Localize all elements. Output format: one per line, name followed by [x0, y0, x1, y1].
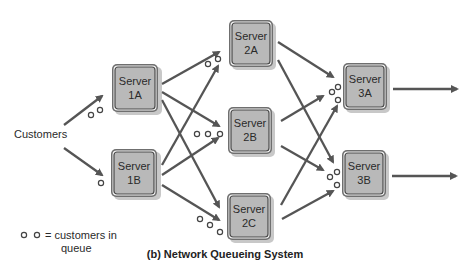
- arrows-output: [392, 89, 457, 176]
- server-3a: Server 3A: [343, 63, 390, 113]
- arrows-stage2-stage3: [278, 42, 337, 219]
- legend-label-line2: queue: [61, 242, 92, 254]
- server-2b: Server 2B: [228, 107, 275, 157]
- server-1a-label-line2: 1A: [128, 89, 142, 101]
- customers-label: Customers: [14, 128, 68, 140]
- server-1a-label-line1: Server: [119, 75, 152, 87]
- queue-1a: [88, 107, 102, 117]
- server-1b-label-line2: 1B: [127, 174, 140, 186]
- server-1b: Server 1B: [111, 149, 161, 200]
- server-2a: Server 2A: [229, 20, 276, 70]
- arrow-2a-to-3a: [278, 42, 333, 77]
- queue-2b: [194, 131, 222, 136]
- server-2b-label-line2: 2B: [243, 131, 256, 143]
- arrow-2a-to-3b: [278, 60, 333, 162]
- server-2c-label-line1: Server: [233, 203, 266, 215]
- server-1b-label-line1: Server: [118, 160, 151, 172]
- server-2a-label-line2: 2A: [244, 44, 258, 56]
- server-3b-label-line1: Server: [348, 160, 381, 172]
- server-1a: Server 1A: [112, 64, 162, 115]
- server-2b-label-line1: Server: [234, 117, 267, 129]
- arrows-source: [64, 96, 102, 175]
- server-2c: Server 2C: [227, 193, 274, 243]
- server-2c-label-line2: 2C: [242, 217, 256, 229]
- legend-queue-icon: [21, 232, 26, 237]
- queue-3a: [329, 84, 340, 102]
- server-2a-label-line1: Server: [235, 30, 268, 42]
- arrow-1a-to-2b: [162, 92, 219, 126]
- network-queueing-diagram: Server 1A Server 1B Server 2A Server 2B …: [0, 0, 470, 273]
- server-3a-label-line1: Server: [349, 73, 382, 85]
- arrow-1b-to-2b: [162, 138, 218, 175]
- server-3b: Server 3B: [342, 150, 389, 200]
- arrow-customers-to-1a: [64, 96, 102, 125]
- legend: = customers in queue: [21, 229, 116, 254]
- legend-label-line1: = customers in: [45, 229, 117, 241]
- server-3b-label-line2: 3B: [357, 174, 370, 186]
- server-3a-label-line2: 3A: [358, 87, 372, 99]
- figure-caption: (b) Network Queueing System: [147, 248, 304, 260]
- legend-queue-icon: [34, 232, 39, 237]
- arrow-2b-to-3a: [281, 96, 323, 121]
- queue-1b: [98, 180, 103, 185]
- arrow-2c-to-3b: [282, 191, 333, 219]
- queue-3b: [327, 169, 339, 187]
- arrow-customers-to-1b: [64, 148, 102, 175]
